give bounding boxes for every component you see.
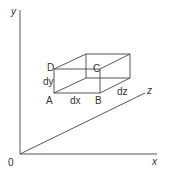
- vertex-label-d: D: [47, 62, 54, 73]
- z-axis-label: z: [146, 85, 152, 96]
- edge-label-dx: dx: [70, 95, 81, 106]
- vertex-label-c: C: [93, 63, 100, 74]
- vertex-label-a: A: [46, 95, 53, 106]
- edge-label-dy: dy: [43, 76, 54, 87]
- box-edge-top-right: [100, 54, 130, 69]
- x-axis-label: x: [151, 156, 158, 167]
- y-axis-label: y: [10, 6, 17, 17]
- coordinate-diagram: y x z 0 D C A B dy dx dz: [0, 0, 169, 172]
- box-edge-bottom-left: [54, 78, 86, 93]
- origin-label: 0: [8, 157, 14, 168]
- vertex-label-b: B: [95, 95, 102, 106]
- box-edge-top-left: [54, 54, 86, 69]
- z-axis: [20, 93, 145, 154]
- edge-label-dz: dz: [117, 86, 128, 97]
